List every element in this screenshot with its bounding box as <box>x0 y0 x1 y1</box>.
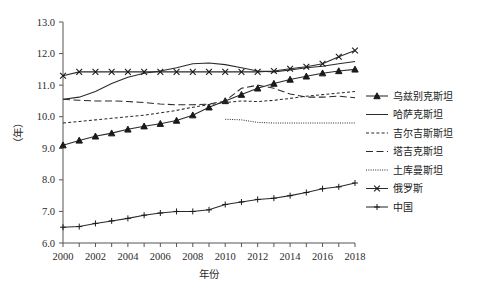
data-point-marker <box>238 91 244 97</box>
data-point-marker <box>303 189 309 195</box>
series-line <box>63 85 355 105</box>
legend-item-label: 土库曼斯坦 <box>393 164 443 176</box>
data-point-marker <box>174 208 180 214</box>
data-point-marker <box>109 218 115 224</box>
y-tick-label: 12.0 <box>37 48 55 59</box>
series-line <box>225 119 355 123</box>
legend-item-4[interactable]: 塔吉克斯坦 <box>366 145 443 157</box>
legend-item-label: 俄罗斯 <box>393 182 423 194</box>
data-point-marker <box>336 184 342 190</box>
legend-item-3[interactable]: 吉尔吉斯斯坦 <box>366 127 453 139</box>
data-point-marker <box>271 195 277 201</box>
chart-figure: 6.07.08.09.010.011.012.013.0200020022004… <box>0 0 493 292</box>
series-5 <box>225 119 355 123</box>
data-point-marker <box>206 207 212 213</box>
y-tick-label: 11.0 <box>37 80 55 91</box>
y-tick-label: 13.0 <box>37 17 55 28</box>
data-point-marker <box>222 201 228 207</box>
legend-item-label: 中国 <box>393 201 413 213</box>
data-point-marker <box>352 180 358 186</box>
data-point-marker <box>255 196 261 202</box>
x-tick-label: 2012 <box>247 251 268 262</box>
data-point-marker <box>125 215 131 221</box>
x-tick-label: 2002 <box>85 251 106 262</box>
legend-item-5[interactable]: 土库曼斯坦 <box>366 164 443 176</box>
x-tick-label: 2008 <box>182 251 203 262</box>
series-7 <box>60 180 358 230</box>
x-axis-title: 年份 <box>199 268 220 280</box>
x-tick-label: 2018 <box>345 251 366 262</box>
y-tick-label: 6.0 <box>42 238 55 249</box>
data-point-marker <box>352 48 358 54</box>
line-chart: 6.07.08.09.010.011.012.013.0200020022004… <box>0 0 493 292</box>
data-point-marker <box>190 208 196 214</box>
legend-item-label: 塔吉克斯坦 <box>393 145 443 157</box>
series-4 <box>63 85 355 105</box>
data-point-marker <box>76 224 82 230</box>
y-axis-title: （年） <box>12 118 24 148</box>
legend-item-2[interactable]: 哈萨克斯坦 <box>366 108 443 120</box>
x-tick-label: 2006 <box>150 251 171 262</box>
series-2 <box>63 61 355 99</box>
legend-item-label: 吉尔吉斯斯坦 <box>393 127 453 139</box>
y-tick-label: 8.0 <box>42 174 55 185</box>
x-tick-label: 2004 <box>117 251 139 262</box>
x-tick-label: 2016 <box>312 251 333 262</box>
legend-item-1[interactable]: 乌兹别克斯坦 <box>366 90 453 102</box>
data-point-marker <box>157 210 163 216</box>
data-point-marker <box>336 54 342 60</box>
data-point-marker <box>92 220 98 226</box>
legend-item-label: 乌兹别克斯坦 <box>393 90 453 102</box>
legend-item-7[interactable]: 中国 <box>366 201 413 213</box>
data-point-marker <box>190 112 196 118</box>
x-tick-label: 2010 <box>215 251 236 262</box>
y-tick-label: 10.0 <box>37 111 55 122</box>
data-point-marker <box>374 204 380 210</box>
data-point-marker <box>320 186 326 192</box>
data-point-marker <box>141 212 147 218</box>
series-line <box>63 183 355 227</box>
y-tick-label: 9.0 <box>42 143 55 154</box>
data-point-marker <box>60 224 66 230</box>
series-line <box>63 61 355 99</box>
data-point-marker <box>238 199 244 205</box>
data-point-marker <box>287 193 293 199</box>
x-tick-label: 2014 <box>280 251 302 262</box>
series-1 <box>60 66 358 148</box>
x-tick-label: 2000 <box>53 251 74 262</box>
legend-item-label: 哈萨克斯坦 <box>393 108 443 120</box>
legend-item-6[interactable]: 俄罗斯 <box>366 182 423 194</box>
y-tick-label: 7.0 <box>42 206 55 217</box>
